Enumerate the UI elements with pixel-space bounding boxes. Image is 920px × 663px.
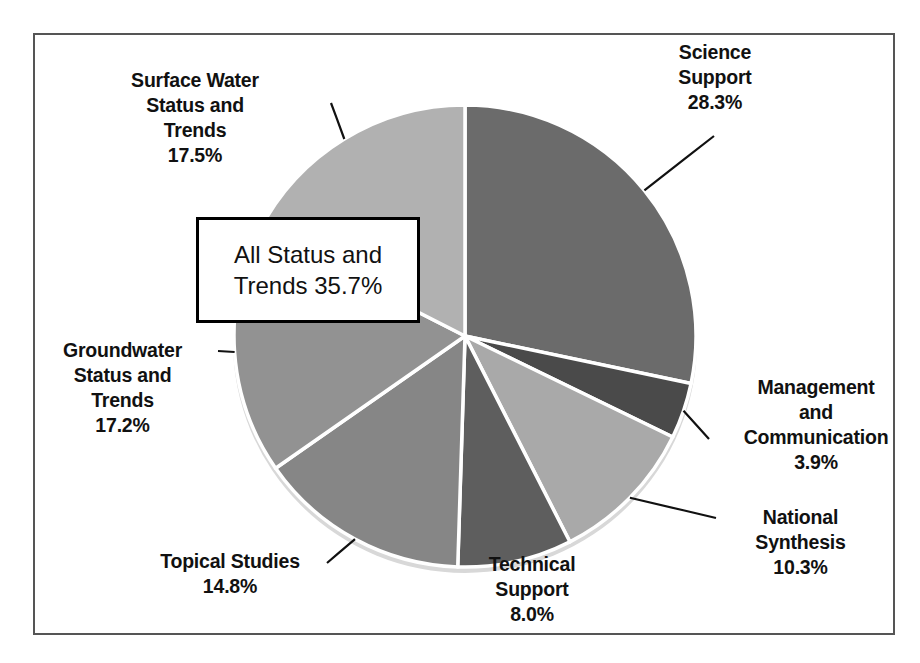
slice-label-science-support: Science Support 28.3%: [625, 40, 805, 115]
leader-line-surface-water-status-and-trends: [331, 103, 344, 139]
all-status-and-trends-callout-text: All Status and Trends 35.7%: [234, 239, 383, 301]
slice-label-groundwater-status-and-trends: Groundwater Status and Trends 17.2%: [30, 338, 215, 438]
leader-line-topical-studies: [327, 539, 355, 563]
slice-label-topical-studies: Topical Studies 14.8%: [130, 549, 330, 599]
all-status-and-trends-callout-box: All Status and Trends 35.7%: [196, 217, 420, 323]
leader-line-management-and-communication: [684, 411, 710, 439]
chart-page: Science Support 28.3% Management and Com…: [0, 0, 920, 663]
slice-label-management-and-communication: Management and Communication 3.9%: [716, 375, 916, 475]
slice-label-surface-water-status-and-trends: Surface Water Status and Trends 17.5%: [95, 68, 295, 168]
slice-label-technical-support: Technical Support 8.0%: [452, 552, 612, 627]
pie-slices-group: [234, 105, 696, 567]
leader-line-science-support: [644, 136, 714, 190]
leader-line-groundwater-status-and-trends: [218, 351, 235, 352]
slice-label-national-synthesis: National Synthesis 10.3%: [718, 505, 883, 580]
leader-line-national-synthesis: [630, 498, 716, 518]
